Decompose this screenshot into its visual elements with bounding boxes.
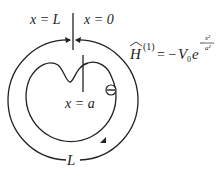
exponent-numerator: x²: [204, 34, 211, 42]
exponent-denominator: a²: [205, 44, 212, 52]
order-superscript: (1): [143, 41, 155, 53]
equals-minus: = −: [157, 47, 176, 62]
direction-arrow-icon: [100, 137, 106, 143]
arrow-head-right-icon: [75, 37, 81, 43]
left-boundary-label: x = L: [29, 12, 61, 27]
hamiltonian-symbol: H: [129, 46, 142, 62]
ring-diagram: x = L x = 0 x = a L H (1) = − V 0 e x² a…: [0, 0, 218, 177]
impurity-label: x = a: [64, 96, 95, 111]
hamiltonian-equation: H (1) = − V 0 e x² a²: [129, 34, 214, 64]
outer-ring-left-arc: [8, 40, 70, 160]
circumference-label: L: [66, 152, 75, 168]
right-boundary-label: x = 0: [83, 12, 114, 27]
arrow-head-left-icon: [65, 37, 71, 43]
coefficient-subscript: 0: [187, 55, 191, 64]
exponential-base: e: [192, 46, 199, 62]
